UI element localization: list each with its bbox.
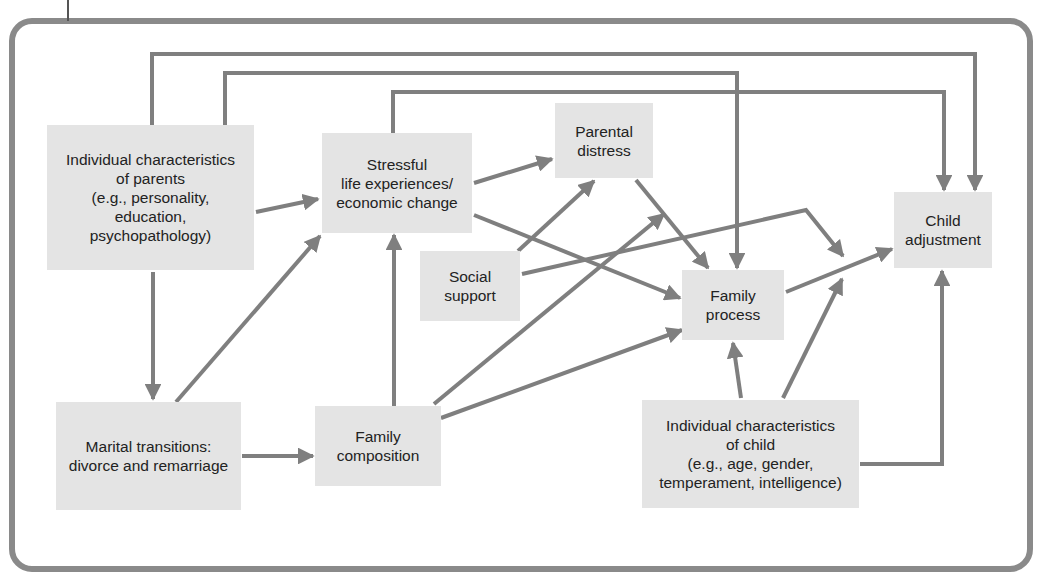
node-family-composition: Family composition	[315, 406, 441, 486]
node-label: Social support	[444, 267, 496, 305]
node-label: Parental distress	[575, 122, 633, 160]
node-social-support: Social support	[420, 251, 520, 321]
node-family-process: Family process	[682, 270, 784, 340]
node-marital-transitions: Marital transitions: divorce and remarri…	[56, 402, 241, 510]
edge-social_support-to-child_adjustment_path	[522, 210, 843, 274]
node-label: Family composition	[337, 427, 420, 465]
node-label: Family process	[706, 286, 760, 324]
node-child-adjustment: Child adjustment	[894, 192, 992, 268]
node-parent-characteristics: Individual characteristics of parents (e…	[47, 125, 254, 270]
node-parental-distress: Parental distress	[555, 103, 653, 178]
node-child-characteristics: Individual characteristics of child (e.g…	[642, 400, 859, 508]
edge-parents-to-family_process	[225, 73, 737, 268]
edge-child_chars-to-family_process	[733, 343, 741, 398]
node-label: Individual characteristics of parents (e…	[66, 150, 235, 245]
edge-parental_distress-to-family_process	[636, 180, 708, 268]
node-label: Marital transitions: divorce and remarri…	[69, 437, 228, 475]
node-stressful-life-experiences: Stressful life experiences/ economic cha…	[322, 133, 472, 233]
edge-stressful-to-parental_distress	[474, 159, 552, 183]
node-label: Individual characteristics of child (e.g…	[659, 416, 842, 492]
edge-social_support-to-parental_distress	[518, 181, 594, 251]
edge-stressful-to-child_adjustment	[393, 92, 944, 190]
edge-parents-to-stressful	[256, 199, 318, 212]
edge-child_chars-to-child_adjustment	[860, 271, 942, 464]
edge-child_chars-to-child_adjustment_path	[783, 279, 842, 398]
node-label: Child adjustment	[905, 211, 981, 249]
node-label: Stressful life experiences/ economic cha…	[336, 155, 458, 212]
